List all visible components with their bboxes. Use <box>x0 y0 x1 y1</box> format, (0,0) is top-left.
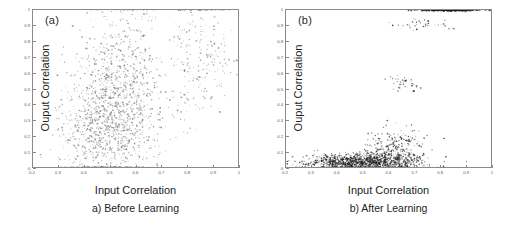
y-tick-label: 0.7 <box>24 54 30 59</box>
x-tick-mark <box>84 165 85 168</box>
y-tick-mark <box>33 104 36 105</box>
y-tick-label: 0.5 <box>277 86 283 91</box>
x-tick-mark <box>58 165 59 168</box>
y-tick-mark <box>33 168 36 169</box>
y-tick-label: 0.6 <box>24 70 30 75</box>
y-tick-label: 0.9 <box>24 22 30 27</box>
panel-caption-a: a) Before Learning <box>32 202 239 214</box>
y-tick-mark <box>286 57 289 58</box>
x-tick-mark <box>187 165 188 168</box>
y-tick-mark <box>286 120 289 121</box>
y-tick-mark <box>286 73 289 74</box>
x-tick-label: 0.7 <box>411 170 417 175</box>
x-tick-label: 0.3 <box>55 170 61 175</box>
y-tick-label: 0.7 <box>277 54 283 59</box>
y-tick-mark <box>286 9 289 10</box>
scatter-points-b <box>286 10 491 167</box>
y-tick-label: 0 <box>28 166 30 171</box>
x-tick-mark <box>466 165 467 168</box>
x-tick-mark <box>110 165 111 168</box>
y-tick-label: 0.4 <box>277 102 283 107</box>
plot-area-b: (b) <box>285 9 492 168</box>
x-tick-label: 0.5 <box>360 170 366 175</box>
panel-before-learning: (a) 0.20.30.40.50.60.70.80.9100.10.20.30… <box>0 0 252 225</box>
x-tick-mark <box>337 165 338 168</box>
x-tick-label: 0.8 <box>437 170 443 175</box>
y-tick-label: 0.1 <box>277 150 283 155</box>
y-tick-mark <box>33 152 36 153</box>
x-tick-label: 0.2 <box>29 170 35 175</box>
y-axis-title-a: Ouput Correlation <box>39 45 51 132</box>
y-tick-label: 1 <box>28 7 30 12</box>
y-tick-label: 1 <box>281 7 283 12</box>
y-tick-mark <box>286 104 289 105</box>
x-tick-mark <box>311 165 312 168</box>
y-tick-label: 0.1 <box>24 150 30 155</box>
y-tick-mark <box>33 89 36 90</box>
y-tick-label: 0.8 <box>277 38 283 43</box>
y-axis-title-b: Ouput Correlation <box>292 45 304 132</box>
x-tick-label: 0.6 <box>133 170 139 175</box>
y-tick-label: 0.2 <box>24 134 30 139</box>
y-tick-mark <box>33 41 36 42</box>
y-tick-mark <box>286 152 289 153</box>
x-tick-mark <box>161 165 162 168</box>
x-tick-mark <box>213 165 214 168</box>
y-tick-mark <box>33 136 36 137</box>
x-tick-label: 0.7 <box>158 170 164 175</box>
x-tick-mark <box>440 165 441 168</box>
x-tick-label: 0.9 <box>463 170 469 175</box>
y-tick-label: 0.9 <box>277 22 283 27</box>
panel-caption-b: b) After Learning <box>285 202 492 214</box>
y-tick-mark <box>33 73 36 74</box>
y-tick-mark <box>33 9 36 10</box>
plot-area-a: (a) <box>32 9 239 168</box>
x-tick-label: 0.8 <box>184 170 190 175</box>
x-tick-label: 0.3 <box>308 170 314 175</box>
x-tick-label: 1 <box>238 170 240 175</box>
x-tick-mark <box>389 165 390 168</box>
panel-after-learning: (b) 0.20.30.40.50.60.70.80.9100.10.20.30… <box>253 0 505 225</box>
y-tick-mark <box>286 168 289 169</box>
y-tick-mark <box>33 25 36 26</box>
x-tick-label: 0.4 <box>81 170 87 175</box>
x-tick-label: 1 <box>491 170 493 175</box>
x-axis-title-b: Input Correlation <box>285 184 492 196</box>
y-tick-label: 0 <box>281 166 283 171</box>
y-tick-mark <box>33 57 36 58</box>
y-tick-mark <box>286 41 289 42</box>
scatter-points-a <box>33 10 238 167</box>
x-axis-title-a: Input Correlation <box>32 184 239 196</box>
x-tick-label: 0.5 <box>107 170 113 175</box>
y-tick-label: 0.6 <box>277 70 283 75</box>
x-tick-label: 0.6 <box>386 170 392 175</box>
y-tick-mark <box>286 89 289 90</box>
x-tick-mark <box>136 165 137 168</box>
y-tick-mark <box>286 136 289 137</box>
y-tick-label: 0.3 <box>277 118 283 123</box>
y-tick-mark <box>33 120 36 121</box>
x-tick-label: 0.2 <box>282 170 288 175</box>
x-tick-label: 0.4 <box>334 170 340 175</box>
y-tick-label: 0.8 <box>24 38 30 43</box>
y-tick-label: 0.5 <box>24 86 30 91</box>
y-tick-label: 0.3 <box>24 118 30 123</box>
scatter-figure: (a) 0.20.30.40.50.60.70.80.9100.10.20.30… <box>0 0 505 225</box>
y-tick-label: 0.4 <box>24 102 30 107</box>
x-tick-mark <box>239 165 240 168</box>
y-tick-mark <box>286 25 289 26</box>
y-tick-label: 0.2 <box>277 134 283 139</box>
x-tick-mark <box>414 165 415 168</box>
x-tick-label: 0.9 <box>210 170 216 175</box>
x-tick-mark <box>363 165 364 168</box>
x-tick-mark <box>492 165 493 168</box>
